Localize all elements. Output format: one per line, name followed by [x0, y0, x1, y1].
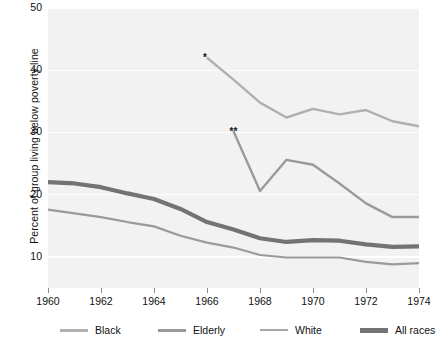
legend-label: Black [95, 324, 121, 336]
series-line-black [207, 58, 419, 126]
y-axis-tick-label: 50 [14, 1, 42, 13]
y-axis-tick-label: 40 [14, 63, 42, 75]
series-lines [48, 8, 419, 288]
legend-line-swatch [60, 329, 88, 332]
legend-line-swatch [360, 328, 388, 333]
x-axis-tick-label: 1966 [187, 295, 227, 307]
chart-legend: BlackElderlyWhiteAll races [48, 322, 419, 342]
footnote-marker: * [203, 53, 207, 63]
legend-item-white[interactable]: White [260, 322, 322, 338]
legend-line-swatch [158, 329, 186, 332]
y-axis-title: Percent of group living below poverty li… [28, 16, 40, 276]
x-axis-tick-label: 1962 [81, 295, 121, 307]
legend-label: White [295, 324, 322, 336]
x-axis-tick-mark [313, 288, 314, 293]
legend-line-swatch [260, 329, 288, 331]
series-line-all-races [48, 182, 419, 247]
x-axis-tick-label: 1970 [293, 295, 333, 307]
plot-area [48, 8, 419, 288]
x-axis-tick-label: 1974 [399, 295, 439, 307]
series-line-white [48, 210, 419, 265]
x-axis-tick-label: 1960 [28, 295, 68, 307]
x-axis-tick-label: 1964 [134, 295, 174, 307]
x-axis-tick-label: 1972 [346, 295, 386, 307]
y-axis-tick-label: 30 [14, 125, 42, 137]
series-line-elderly [234, 131, 420, 217]
x-axis-tick-mark [101, 288, 102, 293]
x-axis-tick-mark [207, 288, 208, 293]
x-axis-tick-mark [366, 288, 367, 293]
footnote-marker: ** [230, 127, 238, 137]
y-axis-tick-label: 20 [14, 188, 42, 200]
y-axis-tick-label: 10 [14, 250, 42, 262]
x-axis-tick-mark [260, 288, 261, 293]
x-axis-tick-mark [419, 288, 420, 293]
x-axis-tick-label: 1968 [240, 295, 280, 307]
legend-label: All races [395, 324, 435, 336]
legend-item-black[interactable]: Black [60, 322, 121, 338]
x-axis-tick-mark [154, 288, 155, 293]
legend-item-all-races[interactable]: All races [360, 322, 435, 338]
legend-label: Elderly [193, 324, 225, 336]
legend-item-elderly[interactable]: Elderly [158, 322, 225, 338]
x-axis-tick-mark [48, 288, 49, 293]
